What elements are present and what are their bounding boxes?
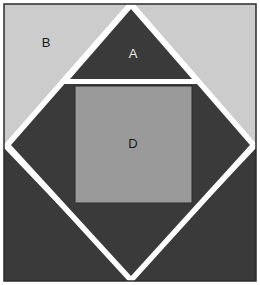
label-d: D — [128, 136, 137, 151]
figure-svg: B A D — [0, 0, 260, 285]
geometric-figure-canvas: B A D — [0, 0, 260, 285]
label-a: A — [129, 46, 138, 61]
label-b: B — [42, 35, 51, 50]
